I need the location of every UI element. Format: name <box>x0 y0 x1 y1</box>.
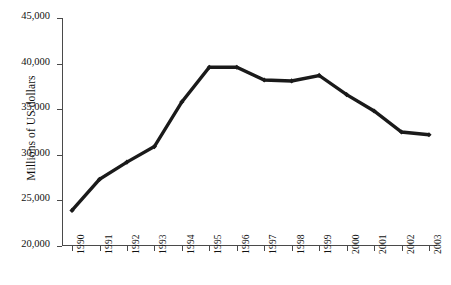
y-axis-tick-label: 40,000 <box>21 56 50 67</box>
x-axis-tick <box>374 246 375 251</box>
y-axis-tick-label: 35,000 <box>21 101 50 112</box>
y-axis-tick-label: 45,000 <box>21 10 50 21</box>
x-axis-tick <box>100 246 101 251</box>
x-axis-tick <box>292 246 293 251</box>
x-axis-tick <box>319 246 320 251</box>
x-axis-tick <box>154 246 155 251</box>
plot-area: 20,00025,00030,00035,00040,00045,000 199… <box>62 18 437 246</box>
chart-figure: Millions of US dollars 20,00025,00030,00… <box>0 0 451 285</box>
x-axis-tick <box>209 246 210 251</box>
data-series-svg <box>62 18 437 246</box>
x-axis-tick <box>182 246 183 251</box>
y-axis-tick-label: 30,000 <box>21 147 50 158</box>
x-axis-tick <box>72 246 73 251</box>
y-axis-tick-label: 20,000 <box>21 238 50 249</box>
x-axis-tick <box>237 246 238 251</box>
series-markers <box>69 65 431 213</box>
series-line-millions-of-us-dollars <box>72 67 429 210</box>
x-axis-tick <box>127 246 128 251</box>
y-axis-title: Millions of US dollars <box>22 8 40 248</box>
y-axis-tick: 20,000 <box>57 246 62 247</box>
x-axis-tick <box>429 246 430 251</box>
x-axis-tick <box>264 246 265 251</box>
x-axis-tick <box>402 246 403 251</box>
x-axis-tick <box>347 246 348 251</box>
y-axis-tick-label: 25,000 <box>21 192 50 203</box>
